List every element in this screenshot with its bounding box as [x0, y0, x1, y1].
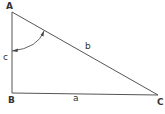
vertex-label-b: B [8, 96, 15, 105]
side-label-a: a [73, 94, 79, 103]
arc-arrowhead-end-icon [41, 31, 45, 37]
right-triangle-diagram [0, 0, 165, 114]
vertex-label-c: C [157, 98, 164, 107]
side-a-line [12, 93, 158, 95]
vertex-label-a: A [6, 2, 13, 11]
angle-arc [12, 31, 44, 51]
side-label-c: c [3, 53, 8, 62]
side-b-line [12, 12, 158, 95]
arc-arrowhead-start-icon [12, 49, 18, 53]
side-label-b: b [85, 42, 91, 51]
